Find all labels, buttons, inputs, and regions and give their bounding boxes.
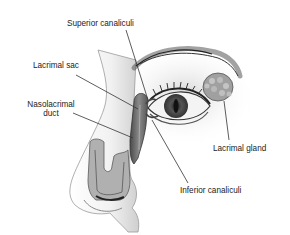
label-lacrimal-gland: Lacrimal gland (213, 144, 266, 153)
label-nasolacrimal-duct-line1: Nasolacrimal (23, 100, 79, 109)
lacrimal-gland (203, 73, 233, 101)
label-inferior-canaliculi: Inferior canaliculi (180, 186, 241, 195)
label-nasolacrimal-duct-line2: duct (23, 109, 79, 118)
lacrimal-diagram: Superior canaliculi Lacrimal sac Nasolac… (0, 0, 290, 235)
label-superior-canaliculi: Superior canaliculi (67, 19, 134, 28)
label-lacrimal-sac: Lacrimal sac (33, 61, 79, 70)
label-nasolacrimal-duct: Nasolacrimal duct (23, 100, 79, 118)
